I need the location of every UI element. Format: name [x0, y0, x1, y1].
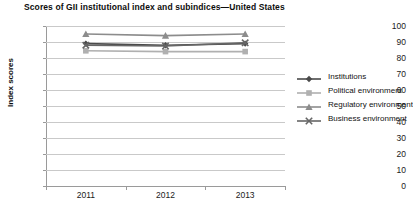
legend-item[interactable]: Regulatory environment — [296, 98, 413, 112]
legend-marker-square-icon — [296, 85, 322, 97]
y-tick-label: 90 — [366, 38, 406, 47]
legend-marker-triangle-icon — [296, 99, 322, 111]
legend-label: Business environment — [328, 115, 407, 123]
legend-item[interactable]: Political environment — [296, 84, 413, 98]
y-tick-label: 20 — [366, 150, 406, 159]
y-tick-label: 10 — [366, 166, 406, 175]
x-tick-label: 2011 — [56, 190, 116, 200]
x-tick-label: 2013 — [215, 190, 275, 200]
x-tick-mark — [126, 186, 127, 190]
y-tick-label: 30 — [366, 134, 406, 143]
y-tick-label: 80 — [366, 54, 406, 63]
y-tick-label: 0 — [366, 182, 406, 191]
x-tick-mark — [205, 186, 206, 190]
legend-item[interactable]: Business environment — [296, 112, 413, 126]
x-tick-label: 2012 — [136, 190, 196, 200]
x-tick-mark — [285, 186, 286, 190]
legend-marker-cross-icon — [296, 113, 322, 125]
y-axis-label: Index scores — [6, 47, 15, 119]
series-3 — [82, 30, 249, 38]
legend-item[interactable]: Institutions — [296, 70, 413, 84]
legend-label: Institutions — [328, 73, 366, 81]
y-tick-label: 100 — [366, 22, 406, 31]
legend-label: Regulatory environment — [328, 101, 413, 109]
legend-label: Political environment — [328, 87, 402, 95]
x-tick-mark — [46, 186, 47, 190]
chart-title: Scores of GII institutional index and su… — [24, 2, 285, 12]
series-layer — [46, 26, 285, 187]
legend-marker-diamond-icon — [296, 71, 322, 83]
chart-legend: InstitutionsPolitical environmentRegulat… — [296, 70, 413, 126]
series-2 — [83, 48, 248, 54]
